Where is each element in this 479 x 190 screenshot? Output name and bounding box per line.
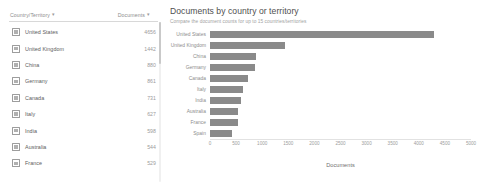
bar-track xyxy=(210,84,471,95)
column-header-country[interactable]: Country/Territory ▾ xyxy=(10,12,118,18)
table-row-documents: 627 xyxy=(147,111,156,117)
bar-category-label: Australia xyxy=(170,109,210,114)
bar-track xyxy=(210,29,471,40)
table-row[interactable]: Canada 731 xyxy=(0,90,166,106)
table-row-country: China xyxy=(25,62,39,68)
table-row-documents: 1442 xyxy=(144,46,156,52)
sort-arrow-icon[interactable]: ▾ xyxy=(52,13,55,18)
table-scrollbar[interactable] xyxy=(159,22,161,182)
table-scrollbar-thumb[interactable] xyxy=(159,22,161,64)
bar-row: China xyxy=(170,51,471,62)
bar-chart-plot: United StatesUnited KingdomChinaGermanyC… xyxy=(170,29,471,139)
table-row[interactable]: Italy 627 xyxy=(0,106,166,122)
table-row[interactable]: India 598 xyxy=(0,122,166,138)
table-row-country: Italy xyxy=(25,111,35,117)
x-axis-tick: 3500 xyxy=(388,141,398,146)
bar-track xyxy=(210,106,471,117)
column-header-documents-label: Documents xyxy=(118,12,145,18)
country-marker-icon xyxy=(12,127,20,135)
bar-row: Spain xyxy=(170,128,471,139)
x-axis-tick: 4500 xyxy=(440,141,450,146)
country-marker-icon xyxy=(12,45,20,53)
bar-row: Germany xyxy=(170,62,471,73)
table-row-documents: 4656 xyxy=(144,29,156,35)
country-marker-icon xyxy=(12,110,20,118)
bar-row: France xyxy=(170,117,471,128)
country-table-rows[interactable]: United States 4656 United Kingdom 1442 C… xyxy=(0,22,166,190)
bar-track xyxy=(210,51,471,62)
bar-category-label: Italy xyxy=(170,87,210,92)
bar[interactable] xyxy=(210,42,285,49)
x-axis-tick: 2000 xyxy=(309,141,319,146)
x-axis-line xyxy=(210,139,471,140)
country-marker-icon xyxy=(12,159,20,167)
country-marker-icon xyxy=(12,28,20,36)
x-axis-tick: 500 xyxy=(232,141,240,146)
x-axis-tick: 3000 xyxy=(361,141,371,146)
x-axis-tick: 1000 xyxy=(257,141,267,146)
bar[interactable] xyxy=(210,64,255,71)
bar-row: Australia xyxy=(170,106,471,117)
sort-arrow-icon[interactable]: ▾ xyxy=(147,13,150,18)
country-marker-icon xyxy=(12,94,20,102)
bar[interactable] xyxy=(210,75,248,82)
country-marker-icon xyxy=(12,61,20,69)
bar[interactable] xyxy=(210,108,238,115)
table-row-country: Canada xyxy=(25,95,44,101)
bar-category-label: Canada xyxy=(170,76,210,81)
table-row-country: France xyxy=(25,160,42,166)
table-row-country: United States xyxy=(25,29,58,35)
chart-panel: Documents by country or territory Compar… xyxy=(166,0,479,190)
table-row-country: Germany xyxy=(25,78,48,84)
x-axis: 0500100015002000250030003500400045005000 xyxy=(210,139,471,155)
bar-track xyxy=(210,128,471,139)
chart-title: Documents by country or territory xyxy=(170,7,471,16)
bar[interactable] xyxy=(210,86,243,93)
bar-track xyxy=(210,73,471,84)
bar-category-label: United States xyxy=(170,32,210,37)
country-marker-icon xyxy=(12,143,20,151)
table-row-country: United Kingdom xyxy=(25,46,64,52)
table-row-country: India xyxy=(25,128,37,134)
bar-track xyxy=(210,95,471,106)
bar[interactable] xyxy=(210,97,241,104)
table-row-documents: 880 xyxy=(147,62,156,68)
bar[interactable] xyxy=(210,31,434,38)
table-row[interactable]: United Kingdom 1442 xyxy=(0,40,166,56)
column-header-documents[interactable]: Documents ▾ xyxy=(118,12,160,18)
bar-category-label: Spain xyxy=(170,131,210,136)
table-row[interactable]: France 529 xyxy=(0,155,166,171)
country-marker-icon xyxy=(12,77,20,85)
table-row[interactable]: Germany 861 xyxy=(0,73,166,89)
column-header-country-label: Country/Territory xyxy=(10,12,50,18)
documents-by-country-panel: Country/Territory ▾ Documents ▾ United S… xyxy=(0,0,479,190)
bar[interactable] xyxy=(210,119,238,126)
bar-category-label: United Kingdom xyxy=(170,43,210,48)
bar-row: Italy xyxy=(170,84,471,95)
bar-row: Canada xyxy=(170,73,471,84)
table-row[interactable]: United States 4656 xyxy=(0,24,166,40)
country-table-panel: Country/Territory ▾ Documents ▾ United S… xyxy=(0,0,166,190)
bar[interactable] xyxy=(210,53,256,60)
bar-row: United States xyxy=(170,29,471,40)
chart-subtitle: Compare the document counts for up to 15… xyxy=(170,19,471,24)
table-row[interactable]: Australia 544 xyxy=(0,139,166,155)
bar-track xyxy=(210,40,471,51)
bar[interactable] xyxy=(210,130,232,137)
bar-category-label: France xyxy=(170,120,210,125)
table-row-documents: 529 xyxy=(147,160,156,166)
bar-track xyxy=(210,117,471,128)
bar-category-label: China xyxy=(170,54,210,59)
table-header-row: Country/Territory ▾ Documents ▾ xyxy=(0,0,166,20)
bar-row: United Kingdom xyxy=(170,40,471,51)
table-row-documents: 598 xyxy=(147,128,156,134)
bar-row: India xyxy=(170,95,471,106)
x-axis-tick: 1500 xyxy=(283,141,293,146)
table-row[interactable]: China 880 xyxy=(0,57,166,73)
x-axis-tick: 4000 xyxy=(414,141,424,146)
x-axis-tick: 0 xyxy=(209,141,212,146)
table-row-country: Australia xyxy=(25,144,46,150)
bar-track xyxy=(210,62,471,73)
bar-category-label: India xyxy=(170,98,210,103)
x-axis-label: Documents xyxy=(210,162,471,168)
